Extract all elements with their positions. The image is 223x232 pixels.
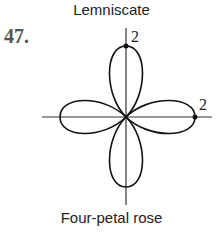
top-point-marker (124, 44, 129, 49)
right-point-marker (193, 115, 198, 120)
rose-diagram: 2 2 (0, 0, 223, 232)
top-value-label: 2 (131, 28, 139, 45)
figure-caption: Four-petal rose (0, 208, 223, 228)
right-value-label: 2 (199, 96, 207, 113)
